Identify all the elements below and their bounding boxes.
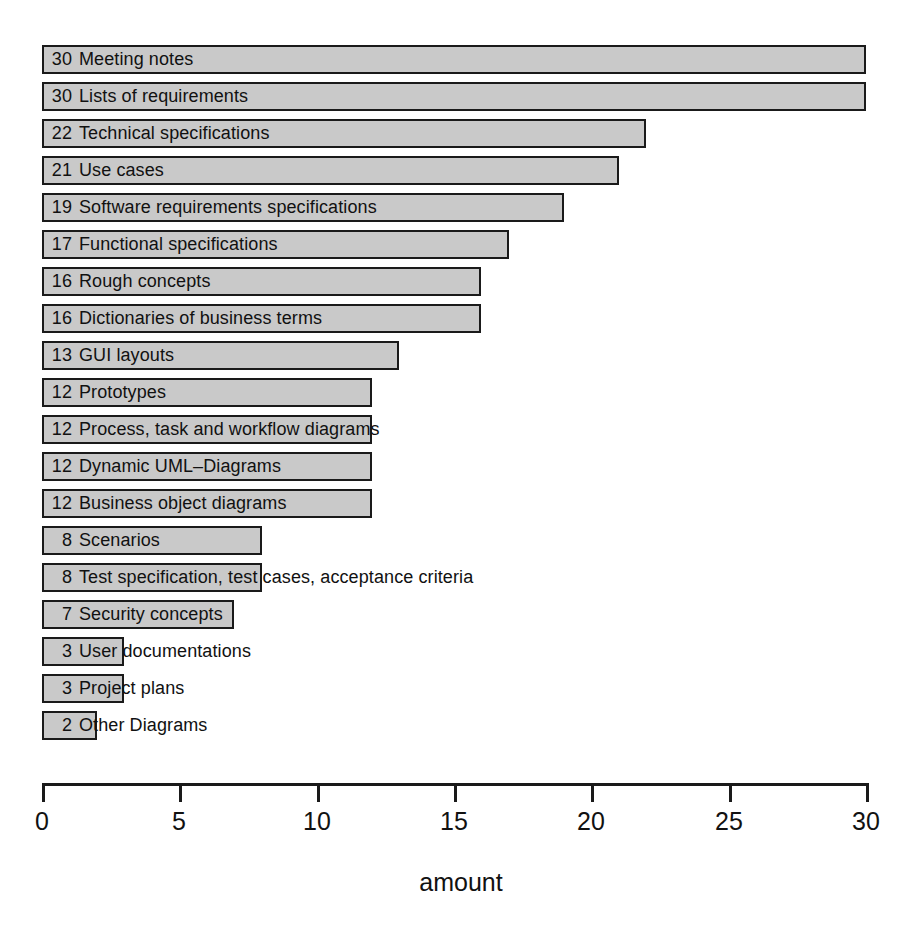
x-axis-tick-label: 20	[561, 807, 621, 836]
x-axis-tick	[591, 783, 594, 802]
bar-row[interactable]: 12Dynamic UML–Diagrams	[0, 452, 922, 481]
bar[interactable]	[42, 230, 509, 259]
x-axis-tick-label: 0	[12, 807, 72, 836]
bar[interactable]	[42, 45, 866, 74]
bar-row[interactable]: 22Technical specifications	[0, 119, 922, 148]
x-axis-tick-label: 25	[699, 807, 759, 836]
bar[interactable]	[42, 600, 234, 629]
bar[interactable]	[42, 452, 372, 481]
plot-area: 30Meeting notes30Lists of requirements22…	[0, 0, 922, 770]
x-axis-tick-label: 5	[149, 807, 209, 836]
bar-category-label: Other Diagrams	[79, 715, 207, 735]
x-axis-tick	[454, 783, 457, 802]
bar-row[interactable]: 7Security concepts	[0, 600, 922, 629]
bar[interactable]	[42, 674, 124, 703]
x-axis-tick-label: 10	[287, 807, 347, 836]
bar-row[interactable]: 2Other Diagrams	[0, 711, 922, 740]
x-axis-tick	[179, 783, 182, 802]
bar-row[interactable]: 19Software requirements specifications	[0, 193, 922, 222]
bar-row[interactable]: 17Functional specifications	[0, 230, 922, 259]
bar-row[interactable]: 8Scenarios	[0, 526, 922, 555]
x-axis: 051015202530	[0, 783, 922, 813]
bar[interactable]	[42, 415, 372, 444]
bar[interactable]	[42, 193, 564, 222]
bar[interactable]	[42, 526, 262, 555]
bar[interactable]	[42, 156, 619, 185]
x-axis-tick	[866, 783, 869, 802]
bar[interactable]	[42, 489, 372, 518]
x-axis-title: amount	[0, 868, 922, 897]
bar-row[interactable]: 13GUI layouts	[0, 341, 922, 370]
bar[interactable]	[42, 711, 97, 740]
bar-row[interactable]: 12Prototypes	[0, 378, 922, 407]
bar[interactable]	[42, 267, 481, 296]
bar[interactable]	[42, 341, 399, 370]
x-axis-tick	[317, 783, 320, 802]
bar[interactable]	[42, 82, 866, 111]
bar-chart: 30Meeting notes30Lists of requirements22…	[0, 0, 922, 930]
bar-row[interactable]: 3Project plans	[0, 674, 922, 703]
bar[interactable]	[42, 637, 124, 666]
bar[interactable]	[42, 119, 646, 148]
bar-row[interactable]: 21Use cases	[0, 156, 922, 185]
bar-row[interactable]: 8Test specification, test cases, accepta…	[0, 563, 922, 592]
bar-row[interactable]: 12Process, task and workflow diagrams	[0, 415, 922, 444]
bar-row[interactable]: 3User documentations	[0, 637, 922, 666]
bar-row[interactable]: 30Lists of requirements	[0, 82, 922, 111]
x-axis-tick	[42, 783, 45, 802]
bar-row[interactable]: 16Rough concepts	[0, 267, 922, 296]
x-axis-tick	[729, 783, 732, 802]
bar[interactable]	[42, 563, 262, 592]
bar[interactable]	[42, 378, 372, 407]
x-axis-tick-label: 30	[836, 807, 896, 836]
x-axis-tick-label: 15	[424, 807, 484, 836]
bar-row[interactable]: 16Dictionaries of business terms	[0, 304, 922, 333]
bar[interactable]	[42, 304, 481, 333]
bar-row[interactable]: 30Meeting notes	[0, 45, 922, 74]
bar-row[interactable]: 12Business object diagrams	[0, 489, 922, 518]
